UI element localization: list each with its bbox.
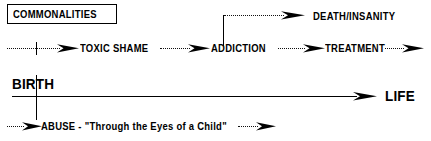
death-insanity-label: DEATH/INSANITY [313,11,395,22]
treatment-label: TREATMENT [325,43,385,54]
abuse-outbound-dotted-line [238,126,258,127]
toxic-shame-label: TOXIC SHAME [80,43,148,54]
birth-riser-tick [36,42,37,55]
addiction-label: ADDICTION [211,43,266,54]
addiction-to-treatment-dotted-line [278,48,305,49]
life-timeline-axis [12,96,357,97]
birth-label: BIRTH [12,76,54,91]
birth-marker-vertical-line [36,75,37,120]
abuse-label: ABUSE - "Through the Eyes of a Child" [41,121,227,132]
shame-to-addiction-dotted-line [160,48,190,49]
commonalities-label: COMMONALITIES [13,9,97,20]
toxic-shame-inbound-dotted-line [7,48,60,49]
commonalities-timeline-diagram: COMMONALITIES DEATH/INSANITY TOXIC SHAME… [0,0,431,141]
commonalities-title-box: COMMONALITIES [7,4,117,24]
life-label: LIFE [385,88,415,103]
death-branch-dotted-line [224,15,284,16]
